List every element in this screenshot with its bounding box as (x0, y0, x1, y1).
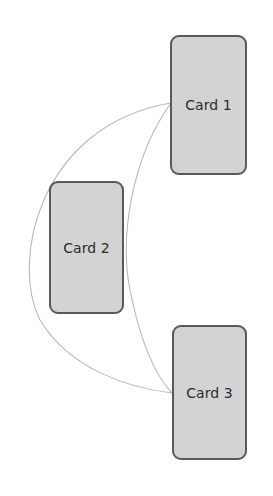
card-1[interactable]: Card 1 (170, 35, 247, 175)
card-1-label: Card 1 (185, 97, 232, 113)
card-2-label: Card 2 (63, 240, 110, 256)
edge-card1-card3-inner (126, 103, 172, 393)
diagram-canvas: Card 1 Card 2 Card 3 (0, 0, 273, 496)
card-3-label: Card 3 (186, 385, 233, 401)
card-2[interactable]: Card 2 (49, 181, 124, 314)
card-3[interactable]: Card 3 (172, 325, 247, 460)
